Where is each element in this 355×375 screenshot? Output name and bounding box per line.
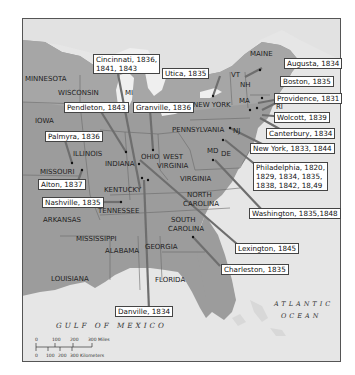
state-label-arkansas: ARKANSAS — [43, 216, 81, 224]
state-label-vermont: VT — [231, 71, 240, 79]
callout-palmyra: Palmyra, 1836 — [45, 131, 103, 142]
state-label-missouri: MISSOURI — [40, 168, 75, 176]
map: MINNESOTA WISCONSIN MI IOWA ILLINOIS IND… — [0, 0, 355, 375]
state-label-mississippi: MISSISSIPPI — [76, 235, 117, 243]
callout-augusta: Augusta, 1834 — [284, 58, 342, 69]
state-label-kentucky: KENTUCKY — [104, 186, 141, 194]
state-label-wisconsin: WISCONSIN — [58, 89, 99, 97]
state-label-rhode-island: RI — [276, 103, 283, 111]
state-label-new-jersey: NJ — [233, 127, 240, 135]
scale-miles-200: 200 — [70, 337, 79, 342]
state-label-delaware: DE — [221, 150, 231, 158]
state-label-ohio: OHIO — [141, 153, 159, 161]
scale-miles-0: 0 — [35, 337, 38, 342]
scale-miles-300: 300 Miles — [88, 337, 110, 342]
scale-miles-100: 100 — [52, 337, 61, 342]
state-label-north-carolina-1: NORTH — [187, 191, 212, 199]
callout-new-york: New York, 1833, 1844 — [250, 143, 335, 154]
callout-washington: Washington, 1835,1848 — [249, 208, 341, 219]
callout-canterbury: Canterbury, 1834 — [266, 128, 335, 139]
callout-providence: Providence, 1831 — [274, 93, 342, 104]
scale-km-300: 300 Kilometers — [70, 353, 104, 358]
state-label-massachusetts: MA — [239, 97, 250, 105]
callout-danville: Danville, 1834 — [115, 306, 173, 317]
state-label-michigan: MI — [125, 89, 133, 97]
scale-km-100: 100 — [46, 353, 55, 358]
state-label-north-carolina-2: CAROLINA — [183, 200, 219, 208]
callout-nashville: Nashville, 1835 — [42, 197, 104, 208]
callout-pendleton: Pendleton, 1843 — [64, 102, 129, 113]
state-label-new-hampshire: NH — [240, 81, 251, 89]
state-label-georgia: GEORGIA — [145, 243, 178, 251]
state-label-south-carolina-1: SOUTH — [171, 216, 196, 224]
state-label-florida: FLORIDA — [155, 276, 185, 284]
state-label-tennessee: TENNESSEE — [98, 207, 139, 215]
state-label-west-virginia-2: VIRGINIA — [157, 162, 188, 170]
water-label-ocean: OCEAN — [281, 312, 321, 320]
state-label-illinois: ILLINOIS — [73, 150, 102, 158]
water-label-gulf-of-mexico: GULF OF MEXICO — [56, 321, 167, 330]
state-label-south-carolina-2: CAROLINA — [168, 225, 204, 233]
callout-cincinnati: Cincinnati, 1836, 1841, 1843 — [93, 54, 160, 74]
state-label-minnesota: MINNESOTA — [25, 75, 66, 83]
callout-utica: Utica, 1835 — [162, 68, 209, 79]
callout-wolcott: Wolcott, 1839 — [274, 112, 330, 123]
callout-philadelphia: Philadelphia, 1820, 1829, 1834, 1835, 18… — [253, 162, 328, 191]
callout-granville: Granville, 1836 — [133, 102, 194, 113]
callout-boston: Boston, 1835 — [280, 76, 334, 87]
state-label-new-york: NEW YORK — [193, 101, 231, 109]
callout-charleston: Charleston, 1835 — [221, 264, 289, 275]
state-label-iowa: IOWA — [35, 117, 54, 125]
state-label-maine: MAINE — [250, 50, 273, 58]
water-label-atlantic: ATLANTIC — [274, 300, 333, 308]
scale-km-200: 200 — [58, 353, 67, 358]
state-label-louisiana: LOUISIANA — [51, 275, 89, 283]
scale-km-0: 0 — [35, 353, 38, 358]
state-label-indiana: INDIANA — [105, 160, 135, 168]
callout-lexington: Lexington, 1845 — [235, 243, 299, 254]
state-label-pennsylvania: PENNSYLVANIA — [172, 126, 224, 134]
state-label-maryland: MD — [207, 147, 218, 155]
state-label-alabama: ALABAMA — [105, 247, 139, 255]
state-label-virginia: VIRGINIA — [180, 175, 211, 183]
state-label-west-virginia-1: WEST — [163, 153, 183, 161]
callout-alton: Alton, 1837 — [38, 179, 86, 190]
